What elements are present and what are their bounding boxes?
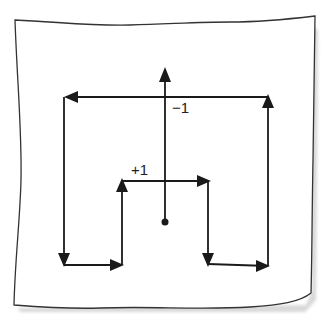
diagram-canvas: −1 +1: [0, 0, 332, 323]
label-minus-one: −1: [172, 99, 189, 116]
label-plus-one: +1: [131, 161, 148, 178]
origin-dot: [162, 219, 169, 226]
